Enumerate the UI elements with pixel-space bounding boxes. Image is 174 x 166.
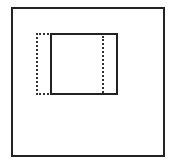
inner-solid-rectangle: [50, 33, 118, 95]
dotted-divider-line: [102, 36, 104, 93]
